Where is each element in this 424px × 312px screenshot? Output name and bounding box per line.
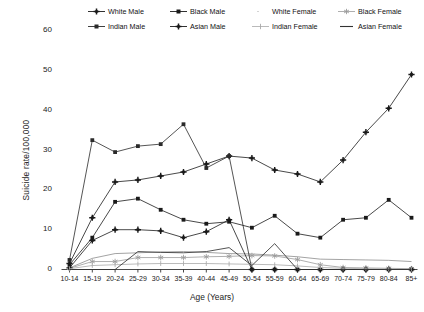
chart-figure: White Male Black Male White Female Black…: [0, 0, 424, 312]
series-indian-female: [70, 261, 412, 271]
plot-area: [0, 0, 424, 312]
y-tick-label: 10: [30, 224, 52, 233]
y-tick-label: 20: [30, 184, 52, 193]
series-asian-female: [70, 244, 412, 270]
y-tick-label: 30: [30, 145, 52, 154]
y-tick-label: 50: [30, 65, 52, 74]
y-tick-label: 60: [30, 25, 52, 34]
series-indian-male: [68, 122, 414, 271]
x-tick-label: 85+: [397, 275, 424, 282]
y-tick-label: 0: [30, 264, 52, 273]
series-white-male: [66, 71, 414, 266]
y-tick-label: 40: [30, 105, 52, 114]
